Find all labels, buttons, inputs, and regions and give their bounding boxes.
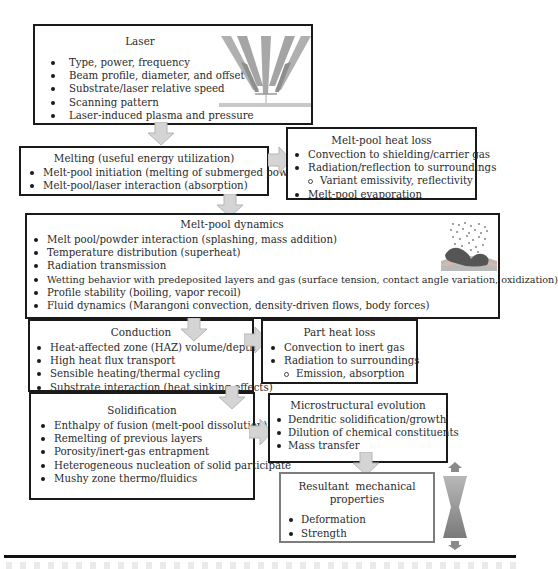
melt-pool-powder-icon xyxy=(441,221,497,271)
mechanical-properties-title-line1: Resultant mechanical xyxy=(281,480,433,493)
list-item: Heat-affected zone (HAZ) volume/depth xyxy=(50,341,273,354)
divider-rule xyxy=(4,555,516,558)
list-item: Sensible heating/thermal cycling xyxy=(50,367,273,380)
melt-pool-heat-loss-title: Melt-pool heat loss xyxy=(288,134,475,147)
list-item: Melt-pool evaporation xyxy=(308,188,496,201)
melt-pool-heat-loss-box: Melt-pool heat loss Convection to shield… xyxy=(286,127,477,200)
list-item: Radiation to surroundings xyxy=(284,354,419,367)
arrow-down-icon xyxy=(147,122,175,146)
list-item: Porosity/inert-gas entrapment xyxy=(54,445,291,458)
list-subitem: Variant emissivity, reflectivity xyxy=(308,174,496,187)
list-item: Profile stability (boiling, vapor recoil… xyxy=(47,286,558,299)
microstructural-evolution-list: Dendritic solidification/growth Dilution… xyxy=(288,413,459,453)
melting-box: Melting (useful energy utilization) Melt… xyxy=(19,146,269,196)
conduction-box: Conduction Heat-affected zone (HAZ) volu… xyxy=(28,319,254,392)
melt-pool-dynamics-title: Melt-pool dynamics xyxy=(27,218,437,231)
list-subitem: Emission, absorption xyxy=(284,367,419,380)
melt-pool-heat-loss-list: Convection to shielding/carrier gas Radi… xyxy=(308,148,496,201)
list-item: Dendritic solidification/growth xyxy=(288,413,459,426)
laser-box: Laser Type, power, frequency Beam profil… xyxy=(33,24,313,125)
list-item: Radiation/reflection to surroundings xyxy=(308,161,496,174)
list-item: Strength xyxy=(301,527,366,541)
tension-hourglass-icon xyxy=(440,462,470,550)
list-item: Melt-pool/laser interaction (absorption) xyxy=(43,179,309,192)
melt-pool-dynamics-box: Melt-pool dynamics Melt pool/powder inte… xyxy=(25,213,500,319)
mechanical-properties-list: Deformation Strength xyxy=(301,513,366,541)
part-heat-loss-list: Convection to inert gas Radiation to sur… xyxy=(284,341,419,381)
mechanical-properties-box: Resultant mechanical properties Deformat… xyxy=(279,472,435,543)
list-item: Deformation xyxy=(301,513,366,527)
list-item: Convection to shielding/carrier gas xyxy=(308,148,496,161)
arrow-down-icon xyxy=(218,386,246,410)
list-item: High heat flux transport xyxy=(50,354,273,367)
list-item: Heterogeneous nucleation of solid partic… xyxy=(54,459,291,472)
melting-title: Melting (useful energy utilization) xyxy=(21,152,267,165)
list-item: Fluid dynamics (Marangoni convection, de… xyxy=(47,299,558,312)
part-heat-loss-title: Part heat loss xyxy=(263,326,416,339)
list-item: Dilution of chemical constituents xyxy=(288,426,459,439)
conduction-title: Conduction xyxy=(30,326,252,339)
cropped-caption-line xyxy=(6,562,516,569)
list-item: Convection to inert gas xyxy=(284,341,419,354)
laser-nozzle-beams-icon xyxy=(219,34,311,114)
mechanical-properties-title-line2: properties xyxy=(281,493,433,506)
list-item: Mass transfer xyxy=(288,439,459,452)
list-item: Mushy zone thermo/fluidics xyxy=(54,472,291,485)
part-heat-loss-box: Part heat loss Convection to inert gas R… xyxy=(261,319,418,384)
arrow-down-icon xyxy=(180,318,208,342)
list-item: Wetting behavior with predeposited layer… xyxy=(47,273,558,286)
laser-title: Laser xyxy=(35,35,245,48)
microstructural-evolution-title: Microstructural evolution xyxy=(270,399,446,412)
